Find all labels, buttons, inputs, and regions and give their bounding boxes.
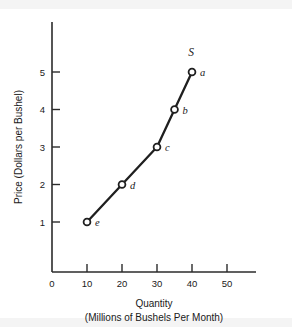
x-tick-label-30: 30	[152, 278, 163, 289]
data-point-c	[154, 144, 161, 151]
x-axis-ticks	[87, 264, 227, 272]
x-tick-label-50: 50	[222, 278, 233, 289]
data-point-e	[84, 219, 91, 226]
y-tick-label-2: 2	[40, 179, 45, 190]
data-point-d	[119, 181, 126, 188]
y-tick-label-1: 1	[40, 217, 45, 228]
data-point-b	[171, 106, 178, 113]
y-axis-ticks	[52, 72, 60, 222]
data-point-a	[189, 69, 196, 76]
x-tick-label-0: 0	[49, 278, 54, 289]
y-tick-label-4: 4	[40, 104, 45, 115]
data-point-label-d: d	[130, 180, 136, 191]
supply-curve-line	[87, 72, 192, 222]
chart-canvas: 5 4 3 2 1 0 10 20 30 40 50 e d c b a S P…	[0, 0, 292, 327]
y-tick-label-3: 3	[40, 142, 45, 153]
x-axis-subtitle: (Millions of Bushels Per Month)	[85, 312, 223, 323]
y-tick-label-5: 5	[40, 67, 45, 78]
x-tick-label-10: 10	[82, 278, 93, 289]
data-point-label-c: c	[165, 142, 170, 153]
y-axis-title: Price (Dollars per Bushel)	[13, 90, 24, 204]
x-tick-label-20: 20	[117, 278, 128, 289]
x-tick-label-40: 40	[187, 278, 198, 289]
x-axis-title: Quantity	[135, 298, 172, 309]
data-point-label-b: b	[183, 105, 188, 116]
data-point-label-a: a	[200, 67, 205, 78]
supply-curve-label: S	[188, 46, 194, 58]
data-point-label-e: e	[95, 217, 100, 228]
supply-curve-figure: 5 4 3 2 1 0 10 20 30 40 50 e d c b a S P…	[0, 0, 292, 327]
